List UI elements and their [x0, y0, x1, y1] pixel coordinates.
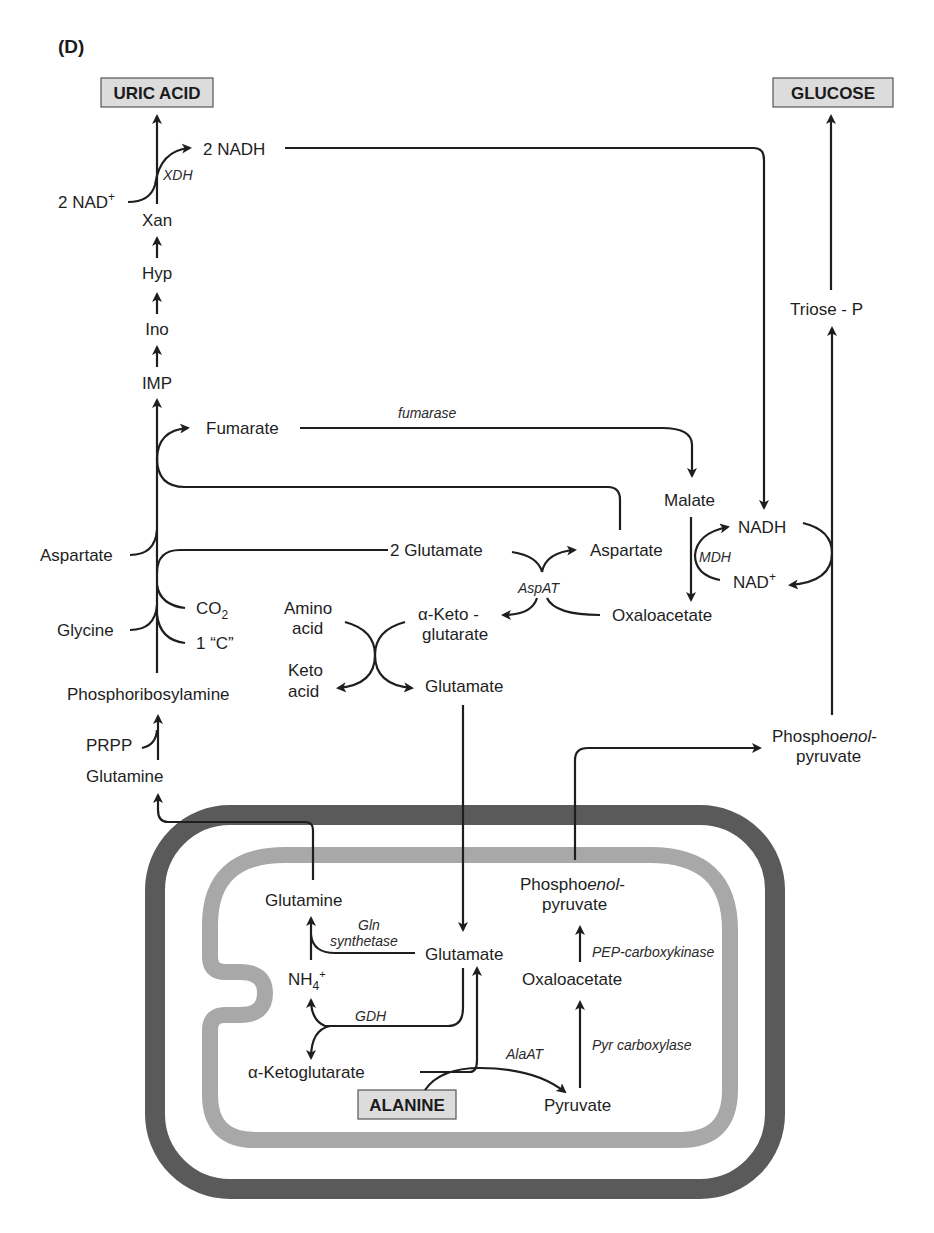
gln-synthetase-2: synthetase	[330, 933, 398, 949]
hyp: Hyp	[142, 264, 172, 283]
fumarase-reaction: fumarase	[300, 405, 692, 476]
phosphoribosylamine: Phosphoribosylamine	[67, 685, 230, 704]
alpha-ketoglutarate-cell: α-Ketoglutarate	[248, 1063, 365, 1082]
cell-interior: Glutamine Gln synthetase Glutamate NH4+ …	[248, 875, 714, 1115]
pep-cell-1: Phosphoenol-	[520, 875, 625, 894]
gln-synthetase-1: Gln	[358, 917, 380, 933]
nadh-shuttle: NADH	[738, 518, 786, 537]
amino-acid-2: acid	[292, 619, 323, 638]
prpp: PRPP	[86, 736, 132, 755]
two-glutamate: 2 Glutamate	[390, 541, 483, 560]
panel-label: (D)	[58, 36, 84, 57]
keto-acid-1: Keto	[288, 661, 323, 680]
glucose-box: GLUCOSE	[773, 78, 893, 107]
oxaloacetate-upper: Oxaloacetate	[612, 606, 712, 625]
uric-acid-box: URIC ACID	[101, 78, 213, 107]
uric-acid-label: URIC ACID	[113, 84, 200, 103]
alpha-keto-glutarate-2: glutarate	[422, 625, 488, 644]
nh4: NH4+	[288, 968, 326, 993]
co2: CO2	[196, 599, 229, 622]
pep-cell-2: pyruvate	[542, 895, 607, 914]
glycine: Glycine	[57, 621, 114, 640]
alpha-keto-glutarate-1: α-Keto -	[418, 605, 479, 624]
alanine-label: ALANINE	[369, 1096, 445, 1115]
pyruvate-cell: Pyruvate	[544, 1096, 611, 1115]
glutamine-out: Glutamine	[86, 767, 163, 786]
pep-outside-2: pyruvate	[796, 747, 861, 766]
glutamate-upper: Glutamate	[425, 677, 503, 696]
fumarate: Fumarate	[206, 419, 279, 438]
malate-shuttle: Malate NADH MDH NAD+	[664, 491, 832, 600]
pep-carboxykinase-enzyme: PEP-carboxykinase	[592, 944, 714, 960]
ino: Ino	[145, 320, 169, 339]
aspat-reaction: 2 Glutamate Aspartate AspAT α-Keto - glu…	[390, 541, 712, 644]
aspat-enzyme: AspAT	[517, 580, 560, 596]
nad-plus-2: 2 NAD+	[58, 190, 115, 212]
triose-p: Triose - P	[790, 300, 863, 319]
xdh-enzyme: XDH	[162, 167, 193, 183]
fumarase-enzyme: fumarase	[398, 405, 457, 421]
pathway-diagram: (D) URIC ACID GLUCOSE ALANINE 2 NAD+ 2 N…	[0, 0, 934, 1233]
one-carbon: 1 “C”	[196, 634, 234, 653]
malate: Malate	[664, 491, 715, 510]
nadh-2: 2 NADH	[203, 140, 265, 159]
glutamine-cell: Glutamine	[265, 891, 342, 910]
imp: IMP	[142, 374, 172, 393]
alaat-enzyme: AlaAT	[505, 1046, 545, 1062]
amino-acid-1: Amino	[284, 599, 332, 618]
aspartate-right: Aspartate	[590, 541, 663, 560]
gluconeogenesis: Triose - P Phosphoenol- pyruvate	[575, 116, 877, 860]
pep-outside-1: Phosphoenol-	[772, 727, 877, 746]
oxaloacetate-cell: Oxaloacetate	[522, 970, 622, 989]
keto-acid-2: acid	[288, 682, 319, 701]
glucose-label: GLUCOSE	[791, 84, 875, 103]
nad-plus-shuttle: NAD+	[733, 570, 776, 592]
xan: Xan	[142, 211, 172, 230]
alanine-box: ALANINE	[358, 1090, 456, 1119]
glutamate-cell: Glutamate	[425, 945, 503, 964]
mdh-enzyme: MDH	[699, 549, 732, 565]
pyr-carboxylase-enzyme: Pyr carboxylase	[592, 1037, 692, 1053]
gdh-enzyme: GDH	[355, 1008, 387, 1024]
aspartate-left: Aspartate	[40, 546, 113, 565]
purine-pathway: 2 NAD+ 2 NADH XDH Xan Hyp Ino IMP Fumara…	[40, 116, 620, 786]
